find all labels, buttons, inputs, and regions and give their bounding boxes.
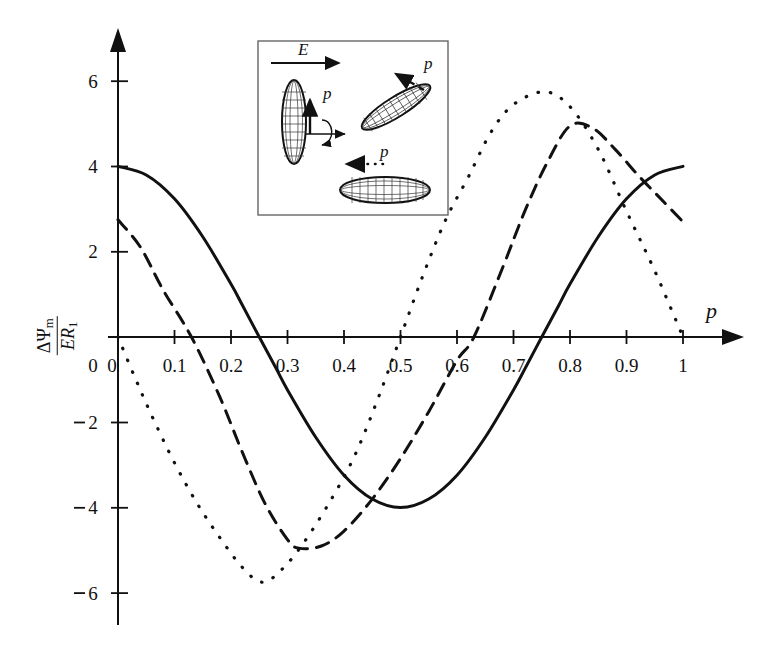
y-tick-label-m2: 2 — [88, 412, 98, 433]
figure-container: 0 0.1 0.2 0.3 0.4 0.5 0.6 0.7 0.8 0.9 1 … — [0, 0, 761, 663]
x-axis — [108, 329, 744, 345]
y-tick-label-6: 6 — [88, 71, 98, 92]
x-axis-arrow — [722, 329, 744, 345]
inset-label-p-dashed: p — [423, 54, 433, 73]
inset-label-p-dotted: p — [379, 142, 389, 161]
x-tick-label-5: 0.5 — [389, 355, 413, 376]
inset-label-E: E — [297, 40, 309, 59]
x-tick-label-8: 0.8 — [558, 355, 582, 376]
inset-label-p-solid: p — [322, 84, 332, 103]
y-label-denominator: ER — [58, 328, 78, 350]
x-tick-label-9: 0.9 — [615, 355, 639, 376]
y-tick-label-m6: 6 — [88, 583, 98, 604]
x-tick-label-0: 0 — [107, 355, 117, 376]
y-label-numerator: ΔΨ — [33, 329, 53, 354]
y-tick-label-m4: 4 — [88, 497, 98, 518]
inset-diagram: E — [258, 40, 448, 215]
y-negative-signs — [74, 423, 85, 594]
x-tick-label-1: 0.1 — [163, 355, 187, 376]
y-axis-label: ΔΨm ER1 — [22, 296, 92, 376]
x-axis-label: p — [704, 298, 717, 323]
x-tick-label-10: 1 — [678, 355, 688, 376]
x-tick-label-4: 0.4 — [332, 355, 356, 376]
x-tick-label-2: 0.2 — [219, 355, 243, 376]
y-label-denominator-sub: 1 — [65, 322, 80, 328]
y-axis — [110, 28, 126, 625]
y-tick-label-2: 2 — [88, 241, 98, 262]
y-axis-arrow — [110, 28, 126, 52]
ellipsoid-vertical — [282, 80, 306, 164]
ellipsoid-horizontal — [340, 177, 430, 203]
plot-svg: 0 0.1 0.2 0.3 0.4 0.5 0.6 0.7 0.8 0.9 1 … — [0, 0, 761, 663]
y-label-numerator-sub: m — [41, 319, 56, 329]
y-tick-label-4: 4 — [88, 156, 98, 177]
